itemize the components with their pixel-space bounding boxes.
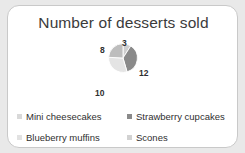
chart-card: Number of desserts sold 3 12 10 8 Mini c… (7, 5, 238, 148)
legend-label: Strawberry cupcakes (136, 111, 225, 122)
chart-legend: Mini cheesecakes Strawberry cupcakes Blu… (8, 106, 238, 148)
data-label-blueberry-muffins: 12 (139, 68, 148, 78)
legend-row: Mini cheesecakes Strawberry cupcakes (8, 106, 238, 127)
legend-swatch-icon (127, 135, 132, 140)
pie-slice (109, 44, 123, 58)
legend-swatch-icon (127, 114, 132, 119)
legend-item-blueberry-muffins[interactable]: Blueberry muffins (17, 127, 100, 148)
legend-row: Blueberry muffins Scones (8, 127, 238, 148)
chart-title: Number of desserts sold (8, 13, 238, 32)
legend-swatch-icon (17, 135, 22, 140)
legend-label: Scones (136, 132, 168, 143)
chart-screenshot: Number of desserts sold 3 12 10 8 Mini c… (0, 0, 245, 153)
legend-label: Blueberry muffins (26, 132, 100, 143)
data-label-strawberry-cupcakes: 3 (122, 38, 127, 48)
legend-swatch-icon (17, 114, 22, 119)
legend-item-mini-cheesecakes[interactable]: Mini cheesecakes (17, 106, 102, 127)
data-label-scones: 10 (95, 88, 104, 98)
data-label-mini-cheesecakes: 8 (100, 45, 105, 55)
legend-item-scones[interactable]: Scones (127, 127, 168, 148)
pie-plot-area: 3 12 10 8 (8, 34, 238, 106)
legend-label: Mini cheesecakes (26, 111, 102, 122)
legend-item-strawberry-cupcakes[interactable]: Strawberry cupcakes (127, 106, 225, 127)
